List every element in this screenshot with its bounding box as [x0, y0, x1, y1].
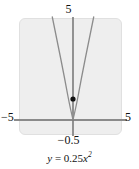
caption-coefficient: 0.25 — [64, 152, 83, 164]
caption-exponent: 2 — [88, 150, 92, 159]
y-min-label: −0.5 — [0, 134, 138, 146]
y-max-label: 5 — [0, 3, 138, 15]
x-min-label: −5 — [1, 111, 14, 123]
focus-point-marker — [70, 96, 75, 101]
parabola-figure: 5 −5 5 −0.5 y = 0.25x2 — [0, 0, 139, 169]
equation-caption: y = 0.25x2 — [0, 152, 139, 164]
x-max-label: 5 — [125, 111, 131, 123]
